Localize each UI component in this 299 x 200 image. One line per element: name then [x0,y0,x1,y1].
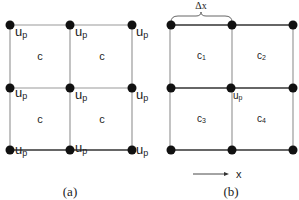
panel-a-node-labels: up up up up up up up up up [15,24,148,158]
svg-text:c: c [99,113,105,125]
diagram-canvas: up up up up up up up up up c c c c (a) Δ… [0,0,299,200]
svg-text:up: up [75,140,87,156]
center-node-label: up [233,90,243,102]
svg-text:up: up [75,87,87,103]
svg-text:c: c [37,113,43,125]
svg-text:c2: c2 [257,50,266,61]
svg-text:c1: c1 [197,50,206,61]
svg-text:up: up [136,87,148,103]
x-axis-arrow: x [193,168,242,180]
panel-b-caption: (b) [223,184,238,199]
x-axis-label: x [236,168,242,180]
svg-text:c: c [37,50,43,62]
panel-a-caption: (a) [63,184,77,199]
svg-text:c3: c3 [197,113,206,124]
svg-text:up: up [136,142,148,158]
svg-text:c: c [99,50,105,62]
svg-text:up: up [15,24,27,40]
delta-x-label: Δx [195,0,206,11]
svg-text:up: up [15,142,27,158]
svg-text:c4: c4 [257,113,266,124]
delta-x-brace: Δx [171,0,232,22]
svg-text:up: up [136,24,148,40]
svg-text:up: up [75,24,87,40]
